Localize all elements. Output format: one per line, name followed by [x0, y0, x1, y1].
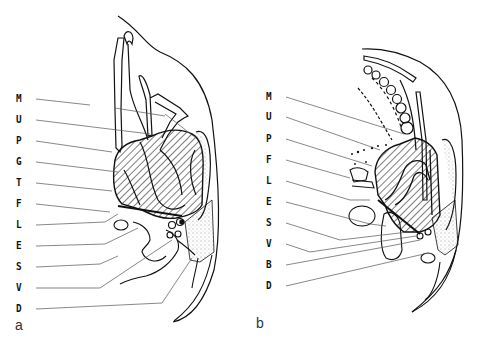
- label-b-v: V: [266, 238, 272, 249]
- label-a-u: U: [16, 114, 22, 125]
- panel-a-hatched-region: [114, 130, 203, 218]
- label-a-l: L: [16, 219, 22, 230]
- label-a-e: E: [16, 240, 22, 251]
- label-b-p: P: [266, 133, 272, 144]
- label-a-m: M: [16, 93, 22, 104]
- label-a-g: G: [16, 156, 22, 167]
- label-b-u: U: [266, 111, 272, 122]
- label-b-b: B: [266, 259, 272, 270]
- label-a-v: V: [16, 282, 22, 293]
- label-a-s: S: [16, 261, 22, 272]
- label-a-d: D: [16, 303, 22, 314]
- anatomy-drawings: [0, 0, 480, 346]
- label-a-f: F: [16, 198, 22, 209]
- panel-b-caption: b: [256, 316, 264, 330]
- label-b-l: L: [266, 175, 272, 186]
- panel-a-caption: a: [15, 318, 23, 332]
- label-b-m: M: [266, 91, 272, 102]
- label-b-f: F: [266, 154, 272, 165]
- label-a-t: T: [16, 177, 22, 188]
- label-b-d: D: [266, 280, 272, 291]
- label-b-s: S: [266, 217, 272, 228]
- anatomical-figure: M U P G T F L E S V D a M U P F L E S V …: [0, 0, 480, 346]
- label-a-p: P: [16, 135, 22, 146]
- label-b-e: E: [266, 196, 272, 207]
